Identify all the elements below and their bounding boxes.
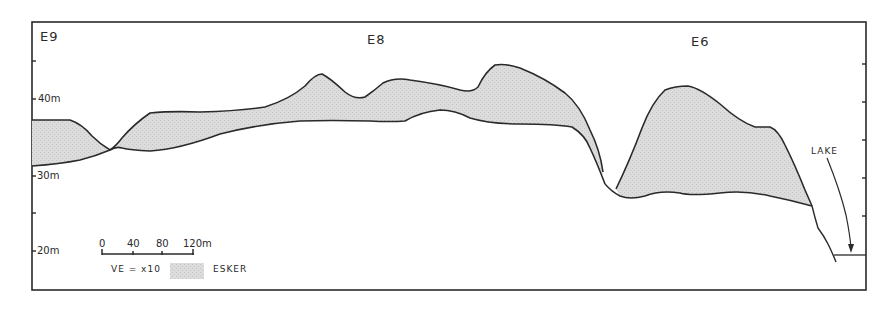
esker-legend-label: ESKER <box>213 264 247 274</box>
vertical-exaggeration-label: VE = x10 <box>111 264 161 274</box>
y-axis-label-40m: 40m <box>38 93 60 104</box>
scale-bar <box>102 249 194 255</box>
arrowhead-icon <box>848 244 854 253</box>
scale-tick-0: 0 <box>99 238 105 249</box>
scale-tick-80: 80 <box>156 238 169 249</box>
y-axis-label-20m: 20m <box>37 245 59 256</box>
y-axis-label-30m: 30m <box>37 170 59 181</box>
lake-arrow <box>827 158 851 248</box>
scale-tick-40: 40 <box>127 238 140 249</box>
section-label-e8: E8 <box>367 32 386 47</box>
esker-e6 <box>616 86 810 205</box>
section-label-e6: E6 <box>691 34 710 49</box>
esker-legend-swatch <box>170 263 204 279</box>
scale-tick-120m: 120m <box>183 238 212 249</box>
section-label-e9: E9 <box>40 29 59 44</box>
esker-e9 <box>32 120 108 166</box>
lake-label: LAKE <box>811 146 838 156</box>
